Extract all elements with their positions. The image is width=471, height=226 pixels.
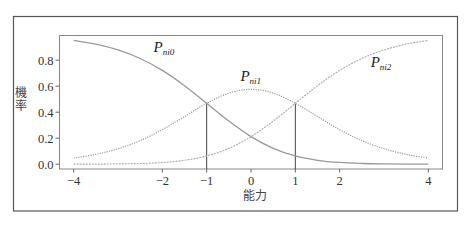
y-tick-label: 0.0 bbox=[38, 158, 54, 172]
y-tick-label: 0.8 bbox=[38, 54, 54, 68]
x-axis-label: 能力 bbox=[243, 189, 267, 203]
curve-label-main: P bbox=[239, 68, 249, 84]
x-tick-label: −2 bbox=[156, 174, 169, 188]
x-tick-label: 2 bbox=[337, 174, 343, 188]
y-axis-label-char: 率 bbox=[15, 98, 27, 113]
curve-label-main: P bbox=[153, 39, 163, 55]
y-tick-label: 0.4 bbox=[38, 106, 54, 120]
curve-label-main: P bbox=[370, 54, 380, 70]
x-tick-label: 1 bbox=[292, 174, 298, 188]
x-tick-label: 4 bbox=[425, 174, 432, 188]
x-tick-label: −4 bbox=[67, 174, 81, 188]
y-tick-label: 0.6 bbox=[38, 80, 54, 94]
curve-label-sub: ni0 bbox=[163, 47, 175, 57]
y-axis-label-char: 機 bbox=[15, 85, 27, 100]
curve-label-sub: ni2 bbox=[380, 62, 392, 72]
y-axis-label: 機率 bbox=[15, 85, 27, 113]
y-tick-label: 0.2 bbox=[38, 132, 54, 146]
curve-label-sub: ni1 bbox=[250, 76, 262, 86]
x-tick-label: 0 bbox=[248, 174, 254, 188]
probability-curve-chart: −4−2−10124 0.00.20.40.60.8 Pni0 Pni1 Pni… bbox=[0, 0, 471, 226]
x-tick-label: −1 bbox=[200, 174, 213, 188]
